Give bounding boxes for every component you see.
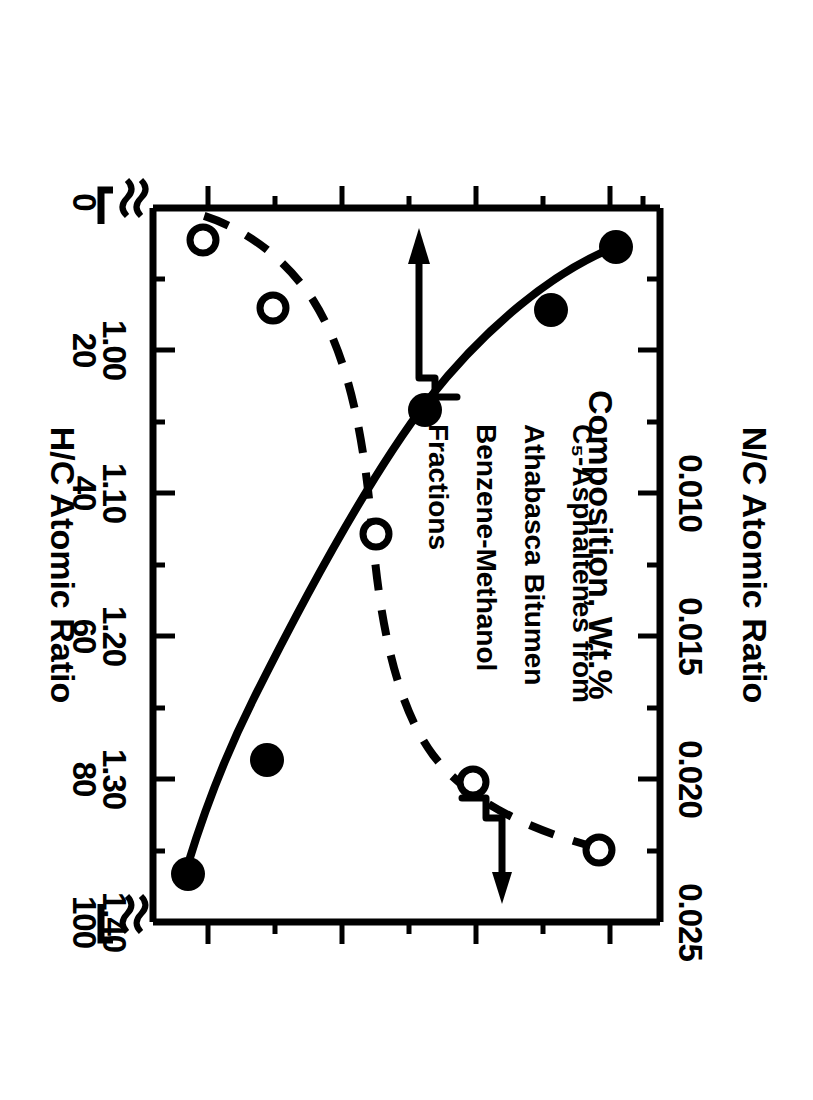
- chart-canvas: 0.025 0.020 0.015 0.010 1.40 1.30 1.20 1…: [0, 0, 813, 1100]
- composition-tick-label: 80: [66, 762, 103, 797]
- plot-title-line: Benzene-Methanol: [471, 424, 502, 671]
- plot-title-line: Athabasca Bitumen: [519, 424, 550, 685]
- composition-tick-label: 0: [66, 193, 103, 210]
- plot-title-line: Fractions: [423, 424, 454, 550]
- axis-break-marks: [123, 180, 146, 932]
- nc-point: [363, 521, 389, 547]
- chart-svg-container: 0.025 0.020 0.015 0.010 1.40 1.30 1.20 1…: [0, 0, 813, 1100]
- nc-tick-label: 0.020: [672, 740, 709, 818]
- nc-point: [586, 837, 612, 863]
- hc-point: [250, 743, 284, 777]
- axis-break-stub: [101, 190, 113, 940]
- composition-tick-label: 20: [66, 333, 103, 368]
- plot-title-block: C₅-Asphaltenes from Athabasca Bitumen Be…: [423, 424, 598, 703]
- nc-point: [190, 227, 216, 253]
- nc-tick-labels: 0.025 0.020 0.015 0.010: [672, 454, 709, 961]
- hc-point: [599, 230, 633, 264]
- nc-tick-label: 0.015: [672, 597, 709, 675]
- nc-tick-label: 0.025: [672, 883, 709, 961]
- figure-root: 0.025 0.020 0.015 0.010 1.40 1.30 1.20 1…: [0, 0, 813, 1100]
- nc-point: [460, 769, 486, 795]
- hc-data-points: [171, 230, 633, 891]
- hc-series-curve: [188, 245, 620, 864]
- hc-point: [171, 857, 205, 891]
- rotated-figure-canvas: 0.025 0.020 0.015 0.010 1.40 1.30 1.20 1…: [0, 0, 813, 1100]
- composition-tick-label: 100: [66, 896, 103, 948]
- nc-axis-title: N/C Atomic Ratio: [736, 427, 774, 703]
- hc-point: [534, 293, 568, 327]
- plot-title-line: C₅-Asphaltenes from: [567, 424, 598, 703]
- nc-tick-label: 0.010: [672, 454, 709, 532]
- hc-axis-title: H/C Atomic Ratio: [44, 427, 82, 703]
- nc-point: [260, 295, 286, 321]
